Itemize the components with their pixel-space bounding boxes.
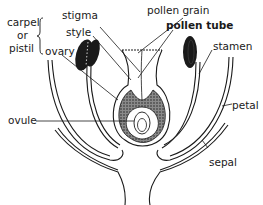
left-petal <box>48 60 123 160</box>
label-pistil: pistil <box>9 42 34 54</box>
flower-diagram: carpel or pistil stigma style ovary poll… <box>0 0 263 205</box>
label-ovule: ovule <box>8 114 37 126</box>
right-stamen-filament <box>162 62 196 148</box>
label-sepal: sepal <box>209 156 237 168</box>
right-petal <box>157 57 233 160</box>
label-ovary: ovary <box>45 45 75 57</box>
left-stamen-filament <box>87 65 118 148</box>
label-or: or <box>17 29 28 41</box>
label-pollen-tube: pollen tube <box>166 19 233 31</box>
label-carpel: carpel <box>7 16 40 28</box>
right-anther <box>183 36 197 68</box>
label-pollen-grain: pollen grain <box>147 4 209 16</box>
pollen-tube-shape <box>141 50 142 100</box>
label-style: style <box>66 26 91 38</box>
ovule-shape <box>134 112 150 134</box>
label-petal: petal <box>232 99 259 111</box>
label-stamen: stamen <box>213 40 252 52</box>
label-stigma: stigma <box>62 9 98 21</box>
flower-cross-section-drawing: carpel or pistil stigma style ovary poll… <box>0 0 263 205</box>
